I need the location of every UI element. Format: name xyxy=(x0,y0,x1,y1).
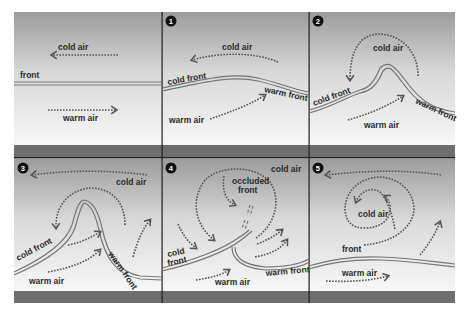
cyclone-development-diagram: cold air front warm air 1 cold air cold … xyxy=(0,0,466,312)
label-cold-air: cold air xyxy=(116,177,147,187)
label-warm-air: warm air xyxy=(363,120,400,130)
row-2-ground-strip xyxy=(14,291,455,303)
label-front: front xyxy=(20,70,40,80)
label-warm-air: warm air xyxy=(341,268,378,278)
row-1-ground-strip xyxy=(14,145,455,158)
label-cold-air: cold air xyxy=(222,42,253,52)
label-warm-air: warm air xyxy=(28,276,65,286)
label-warm-air: warm air xyxy=(62,113,99,123)
label-warm-air: warm air xyxy=(168,115,205,125)
label-occluded-2: front xyxy=(238,185,258,195)
label-cold-air: cold air xyxy=(271,164,302,174)
label-cold-air: cold air xyxy=(373,43,404,53)
svg-text:1: 1 xyxy=(169,17,173,26)
svg-text:2: 2 xyxy=(316,17,320,26)
svg-text:5: 5 xyxy=(316,164,320,173)
label-front: front xyxy=(342,244,362,254)
divider-col-1 xyxy=(162,12,163,303)
label-cold-air: cold air xyxy=(358,209,389,219)
svg-text:3: 3 xyxy=(21,164,25,173)
label-warm-air: warm air xyxy=(214,277,251,287)
label-cold-air: cold air xyxy=(58,42,89,52)
